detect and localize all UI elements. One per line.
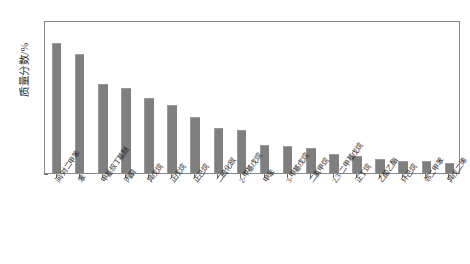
y-tick-mark <box>44 174 48 175</box>
bar <box>52 43 62 173</box>
bar <box>214 128 224 173</box>
bar-chart-figure: 质量分数/% 02.04.06.08.010.012.014.0 间/对二甲苯苯… <box>0 0 470 264</box>
bar <box>190 117 200 173</box>
plot-area <box>44 21 460 174</box>
bar <box>167 105 177 173</box>
y-axis-title: 质量分数/% <box>16 10 31 130</box>
bar <box>98 84 108 173</box>
bar <box>144 98 154 173</box>
x-tick-label: 苯 <box>77 174 88 184</box>
